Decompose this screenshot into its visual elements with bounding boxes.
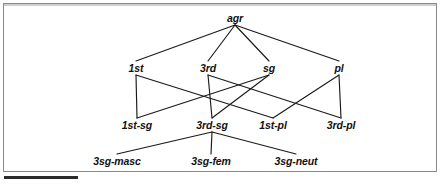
bottom-rule — [4, 176, 78, 179]
node-agr: agr — [227, 13, 243, 24]
node-3sg-masc: 3sg-masc — [93, 156, 141, 167]
node-3sg-neut: 3sg-neut — [275, 156, 318, 167]
node-sg: sg — [263, 63, 275, 74]
node-3rd-pl: 3rd-pl — [327, 120, 356, 131]
node-1st: 1st — [129, 63, 144, 74]
node-pl: pl — [334, 63, 343, 74]
figure-frame — [3, 3, 437, 172]
node-1st-sg: 1st-sg — [122, 120, 152, 131]
node-3rd: 3rd — [200, 63, 216, 74]
node-3sg-fem: 3sg-fem — [191, 156, 231, 167]
node-1st-pl: 1st-pl — [259, 120, 286, 131]
frame-top-shade — [4, 4, 436, 6]
node-3rd-sg: 3rd-sg — [196, 120, 228, 131]
figure-canvas: agr1st3rdsgpl1st-sg3rd-sg1st-pl3rd-pl3sg… — [0, 0, 445, 185]
